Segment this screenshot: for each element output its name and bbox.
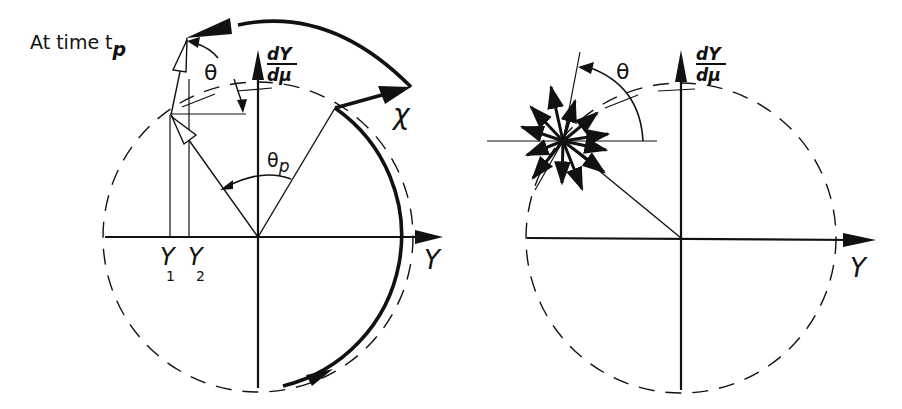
chi-label: χ	[391, 98, 411, 131]
right-y-axis-arrow-icon	[843, 233, 876, 247]
dydmu-den-right: dμ	[696, 65, 721, 85]
at-time-label: At time tp	[30, 31, 126, 60]
right-y-axis	[527, 238, 855, 240]
y2-label: Y	[188, 243, 205, 271]
outer-arc	[238, 21, 411, 87]
y-axis-label-right: Y	[850, 253, 868, 283]
theta-upper-arrow-icon	[187, 37, 200, 48]
theta-p-arrow-icon	[220, 180, 233, 190]
trajectory-arc-right	[283, 108, 402, 386]
left-diagram: At time tp θ dY dμ χ θp Y 1 Y 2 Y	[30, 18, 443, 392]
right-diagram: θ dY dμ Y	[487, 44, 876, 393]
hollow-arrow-lower-icon	[172, 117, 196, 144]
theta-ref-line	[182, 94, 215, 107]
phase-diagram-canvas: At time tp θ dY dμ χ θp Y 1 Y 2 Y	[0, 0, 902, 409]
y1-subscript: 1	[166, 268, 175, 284]
left-y-axis-arrow-icon	[415, 230, 443, 244]
starburst-arrows-icon	[522, 87, 608, 189]
small-tick-left	[237, 88, 272, 91]
right-dydmu-axis-arrow-icon	[675, 50, 687, 82]
right-theta-label: θ	[616, 59, 629, 84]
dydmu-den-left: dμ	[267, 65, 292, 85]
dydmu-num-right: dY	[696, 44, 722, 64]
y1-label: Y	[160, 243, 177, 271]
theta-p-label: θp	[267, 149, 290, 176]
y2-subscript: 2	[196, 268, 205, 284]
hollow-arrow-upper-icon	[173, 40, 187, 72]
theta-label-left: θ	[204, 60, 217, 85]
right-theta-arrow-icon	[578, 62, 594, 74]
dydmu-num-left: dY	[267, 44, 293, 64]
small-tick-right	[658, 89, 695, 91]
outer-arc-arrow-icon	[186, 18, 232, 38]
theta-down-arrow-icon	[237, 99, 247, 113]
left-dydmu-axis-arrow-icon	[252, 50, 264, 80]
y-axis-label-left: Y	[424, 245, 442, 275]
radius-to-chi-start	[258, 108, 335, 237]
